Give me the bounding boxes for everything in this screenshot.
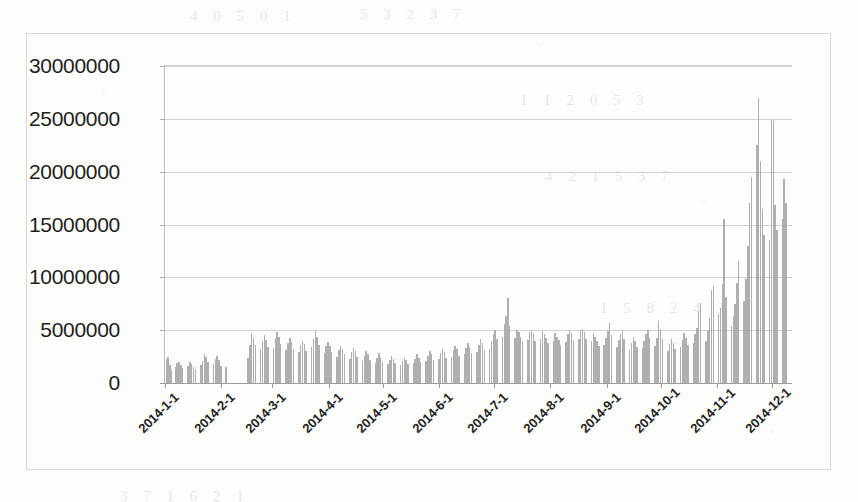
- bar: [331, 352, 332, 383]
- chart-frame: 3000000025000000200000001500000010000000…: [26, 33, 831, 470]
- bar: [547, 343, 548, 383]
- bar: [573, 340, 574, 383]
- x-axis-label: 2014-10-1: [631, 385, 682, 436]
- x-axis-tick: [383, 383, 384, 388]
- bar: [305, 351, 306, 383]
- bar: [636, 347, 637, 383]
- x-axis-tick: [772, 383, 773, 388]
- bar: [509, 326, 510, 383]
- bar: [207, 362, 208, 383]
- x-axis-tick: [494, 383, 495, 388]
- bar: [394, 363, 395, 383]
- x-axis-tick: [439, 383, 440, 388]
- page-bleed-text: 4 0 5 0 1: [190, 8, 297, 25]
- x-axis-tick: [272, 383, 273, 388]
- bar: [484, 350, 485, 383]
- bar: [344, 354, 345, 383]
- bar: [420, 362, 421, 383]
- x-axis-label: 2014-11-1: [688, 385, 739, 436]
- bar: [763, 235, 764, 383]
- bar: [662, 339, 663, 383]
- bar: [585, 339, 586, 383]
- bar: [522, 342, 523, 383]
- bar: [458, 356, 459, 383]
- bar: [776, 230, 777, 383]
- bar: [369, 360, 370, 383]
- bar: [318, 345, 319, 383]
- x-axis-tick: [221, 383, 222, 388]
- x-axis-label: 2014-1-1: [135, 390, 181, 436]
- y-axis-label: 0: [109, 371, 120, 395]
- x-axis-label: 2014-8-1: [521, 390, 567, 436]
- bar: [687, 345, 688, 383]
- y-axis-label: 10000000: [29, 265, 120, 289]
- x-axis-tick: [165, 383, 166, 388]
- bar: [220, 366, 221, 383]
- bar: [356, 357, 357, 383]
- bar: [255, 345, 256, 383]
- bar: [433, 360, 434, 383]
- x-axis-label: 2014-9-1: [577, 390, 623, 436]
- page-bleed-text: 3 7 1 6 2 1: [120, 488, 250, 502]
- bar: [785, 203, 786, 383]
- page-bleed-text: 5 3 2 3 7: [360, 6, 467, 23]
- bar: [195, 369, 196, 383]
- bar: [534, 341, 535, 383]
- bar: [725, 297, 726, 383]
- x-axis-label: 2014-4-1: [299, 390, 345, 436]
- bar: [471, 353, 472, 383]
- x-axis-tick: [717, 383, 718, 388]
- bar: [496, 339, 497, 383]
- bar: [182, 368, 183, 383]
- bar: [623, 339, 624, 383]
- bar: [280, 344, 281, 383]
- bar: [674, 349, 675, 383]
- y-axis-label: 20000000: [29, 160, 120, 184]
- bar: [171, 370, 172, 383]
- bar: [267, 347, 268, 383]
- bar: [700, 303, 701, 383]
- x-axis-tick: [607, 383, 608, 388]
- x-axis-label: 2014-2-1: [192, 390, 238, 436]
- x-axis-label: 2014-7-1: [464, 390, 510, 436]
- bar: [407, 364, 408, 383]
- bar: [560, 345, 561, 383]
- bar: [598, 346, 599, 383]
- bar: [713, 286, 714, 383]
- x-axis-label: 2014-12-1: [742, 385, 793, 436]
- x-axis-label: 2014-3-1: [243, 390, 289, 436]
- bar: [382, 362, 383, 383]
- x-axis-tick: [661, 383, 662, 388]
- bar: [225, 367, 226, 383]
- plot-area: 3000000025000000200000001500000010000000…: [164, 65, 792, 383]
- bar: [738, 261, 739, 383]
- y-axis-label: 30000000: [29, 54, 120, 78]
- y-axis-label: 15000000: [29, 213, 120, 237]
- y-axis-label: 25000000: [29, 107, 120, 131]
- x-axis-tick: [329, 383, 330, 388]
- bar: [649, 338, 650, 383]
- x-axis-tick: [550, 383, 551, 388]
- x-axis-label: 2014-5-1: [353, 390, 399, 436]
- bar: [445, 358, 446, 383]
- bar: [611, 335, 612, 383]
- x-axis-label: 2014-6-1: [410, 390, 456, 436]
- bar-series: [165, 66, 792, 383]
- y-axis-label: 5000000: [40, 318, 120, 342]
- bar: [293, 349, 294, 383]
- x-axis-line: [160, 383, 792, 384]
- bar: [751, 177, 752, 383]
